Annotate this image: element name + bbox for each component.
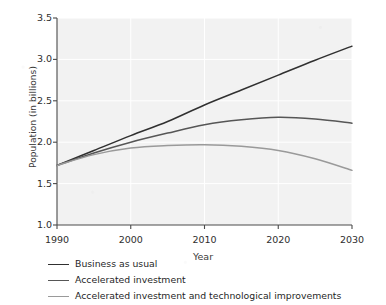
- x-tick-label: 2000: [119, 234, 143, 245]
- x-tick-label: 2030: [340, 234, 364, 245]
- population-projection-chart: Population (in billions) 1.01.52.02.53.0…: [0, 0, 386, 305]
- x-tick-label: 2020: [266, 234, 290, 245]
- legend-line-swatch-icon: [48, 280, 69, 281]
- legend-item-1[interactable]: Accelerated investment: [48, 272, 386, 288]
- x-tick-label: 1990: [45, 234, 69, 245]
- legend-item-0[interactable]: Business as usual: [48, 256, 386, 272]
- legend-line-swatch-icon: [48, 264, 69, 265]
- legend-item-label: Business as usual: [75, 259, 157, 268]
- chart-legend: Business as usualAccelerated investmentA…: [48, 256, 386, 304]
- legend-item-label: Accelerated investment: [75, 275, 186, 284]
- legend-line-swatch-icon: [48, 296, 69, 297]
- x-tick-label: 2010: [192, 234, 216, 245]
- legend-item-2[interactable]: Accelerated investment and technological…: [48, 288, 386, 304]
- legend-item-label: Accelerated investment and technological…: [75, 291, 341, 300]
